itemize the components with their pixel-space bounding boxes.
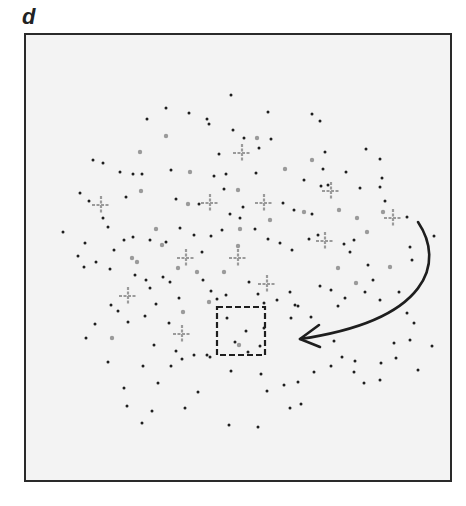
- black-dot: [254, 228, 257, 231]
- black-dot: [267, 111, 270, 114]
- black-dot: [384, 200, 387, 203]
- gray-dot: [302, 210, 306, 214]
- gray-dot: [207, 300, 211, 304]
- black-dot: [433, 235, 436, 238]
- black-dot: [151, 410, 154, 413]
- black-dot: [117, 310, 120, 313]
- black-dot: [359, 187, 362, 190]
- black-dot: [317, 234, 320, 237]
- cross-marker: [177, 249, 195, 267]
- black-dot: [322, 168, 325, 171]
- black-dot: [308, 238, 311, 241]
- black-dot: [210, 235, 213, 238]
- cross-marker: [233, 144, 251, 162]
- black-dot: [181, 358, 184, 361]
- black-dot: [88, 200, 91, 203]
- black-dot: [175, 350, 178, 353]
- dashed-selection-box: [217, 307, 265, 355]
- black-dot: [95, 261, 98, 264]
- black-dot: [216, 298, 219, 301]
- black-dot: [225, 294, 228, 297]
- black-dot: [259, 345, 262, 348]
- black-dot: [170, 169, 173, 172]
- gray-dot: [236, 188, 240, 192]
- black-dot: [162, 276, 165, 279]
- black-dot: [141, 173, 144, 176]
- black-dot: [290, 317, 293, 320]
- black-dot: [77, 255, 80, 258]
- black-dot: [179, 227, 182, 230]
- black-dot: [102, 162, 105, 165]
- black-dot: [395, 357, 398, 360]
- black-dot: [92, 159, 95, 162]
- black-dot: [311, 113, 314, 116]
- gray-dots-layer: [110, 134, 392, 347]
- gray-dot: [139, 189, 143, 193]
- cross-markers-layer: [92, 144, 402, 343]
- black-dot: [294, 304, 297, 307]
- cross-marker: [384, 209, 402, 227]
- black-dot: [170, 365, 173, 368]
- gray-dot: [138, 150, 142, 154]
- black-dots-layer: [62, 94, 436, 429]
- black-dot: [178, 297, 181, 300]
- black-dot: [188, 112, 191, 115]
- black-dot: [223, 188, 226, 191]
- black-dot: [209, 356, 212, 359]
- black-dot: [313, 371, 316, 374]
- black-dot: [119, 171, 122, 174]
- black-dot: [379, 158, 382, 161]
- black-dot: [341, 356, 344, 359]
- gray-dot: [236, 244, 240, 248]
- black-dot: [175, 198, 178, 201]
- black-dot: [413, 322, 416, 325]
- gray-dot: [154, 227, 158, 231]
- gray-dot: [160, 243, 164, 247]
- black-dot: [330, 289, 333, 292]
- black-dot: [144, 315, 147, 318]
- gray-dot: [310, 158, 314, 162]
- black-dot: [263, 302, 266, 305]
- black-dot: [132, 236, 135, 239]
- black-dot: [234, 341, 237, 344]
- black-dot: [245, 330, 248, 333]
- black-dot: [226, 317, 229, 320]
- black-dot: [276, 299, 279, 302]
- black-dot: [293, 209, 296, 212]
- black-dot: [213, 175, 216, 178]
- cross-marker: [92, 196, 110, 214]
- black-dot: [218, 153, 221, 156]
- black-dot: [206, 118, 209, 121]
- gray-dot: [355, 216, 359, 220]
- black-dot: [134, 274, 137, 277]
- black-dot: [193, 234, 196, 237]
- gray-dot: [110, 336, 114, 340]
- black-dot: [79, 192, 82, 195]
- black-dot: [109, 268, 112, 271]
- black-dot: [193, 354, 196, 357]
- black-dot: [155, 303, 158, 306]
- black-dot: [344, 297, 347, 300]
- black-dot: [149, 287, 152, 290]
- black-dot: [330, 365, 333, 368]
- black-dot: [165, 241, 168, 244]
- black-dot: [208, 123, 211, 126]
- black-dot: [84, 242, 87, 245]
- black-dot: [62, 231, 65, 234]
- black-dot: [255, 172, 258, 175]
- cross-marker: [255, 194, 273, 212]
- black-dot: [289, 291, 292, 294]
- black-dot: [324, 151, 327, 154]
- black-dot: [228, 424, 231, 427]
- black-dot: [232, 129, 235, 132]
- black-dot: [221, 229, 224, 232]
- black-dot: [198, 203, 201, 206]
- black-dot: [431, 345, 434, 348]
- black-dot: [123, 239, 126, 242]
- black-dot: [398, 291, 401, 294]
- black-dot: [319, 285, 322, 288]
- cross-marker: [119, 287, 137, 305]
- black-dot: [132, 173, 135, 176]
- black-dot: [230, 370, 233, 373]
- black-dot: [409, 339, 412, 342]
